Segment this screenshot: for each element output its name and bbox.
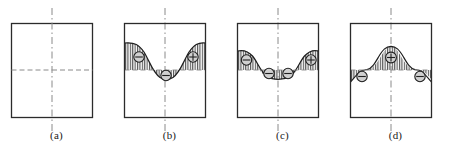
panel-b-symbol-minus-left (134, 52, 144, 62)
panel-c-symbol-minus-center-right (283, 68, 293, 78)
panel-b-symbol-plus-right (188, 52, 198, 62)
figure-container: (a) (0, 0, 452, 159)
panel-c-diagram (226, 0, 339, 132)
panel-b-label: (b) (113, 128, 226, 142)
panel-c: (c) (226, 0, 339, 159)
panel-d-diagram (339, 0, 452, 132)
panel-b-diagram (113, 0, 226, 132)
panel-d-label: (d) (339, 128, 452, 142)
panel-d: (d) (339, 0, 452, 159)
panel-d-symbol-minus-right (415, 71, 425, 81)
panel-c-symbol-minus-center-left (264, 68, 274, 78)
panel-c-label: (c) (226, 128, 339, 142)
panel-d-symbol-minus-left (357, 71, 367, 81)
panel-c-symbol-plus-right (306, 55, 316, 65)
panel-b-symbol-minus-center (161, 70, 171, 80)
panel-d-symbol-plus-center (386, 52, 397, 63)
panel-a-diagram (0, 0, 113, 132)
panel-b: (b) (113, 0, 226, 159)
panel-a-label: (a) (0, 128, 113, 142)
panel-a: (a) (0, 0, 113, 159)
panel-c-symbol-minus-left (241, 55, 251, 65)
